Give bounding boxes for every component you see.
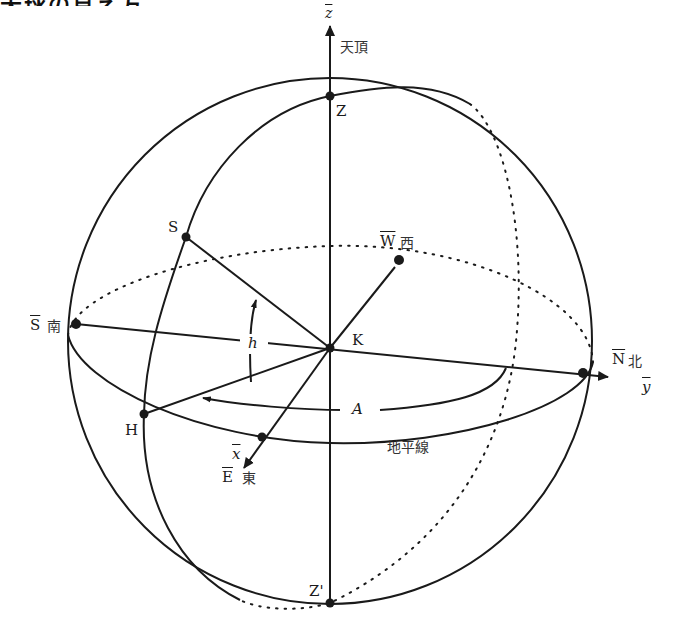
celestial-sphere-diagram	[0, 0, 674, 637]
horizon-label: 地平線	[387, 440, 429, 454]
label-azimuth-a: A	[352, 402, 363, 417]
label-center-k: K	[352, 333, 363, 348]
label-altitude-h: h	[248, 336, 258, 351]
point-center-k	[326, 344, 335, 353]
y-axis-symbol: y	[642, 380, 650, 395]
vertical-circle-front	[144, 96, 330, 600]
point-zenith	[326, 92, 335, 101]
label-north-kanji: 北	[628, 354, 642, 368]
x-axis-symbol: x	[232, 447, 240, 462]
label-h: H	[125, 423, 138, 438]
vertical-circle-top-right	[330, 87, 470, 104]
vertical-circle-back	[240, 104, 519, 609]
label-north-letter: N	[612, 352, 625, 367]
label-star-s: S	[168, 220, 178, 235]
zenith-label: 天頂	[340, 40, 368, 54]
label-west-kanji: 西	[400, 236, 414, 250]
point-nadir	[326, 599, 335, 608]
point-east	[258, 433, 267, 442]
label-nadir: Z'	[309, 584, 324, 599]
point-north	[578, 368, 588, 378]
label-east-kanji: 東	[242, 471, 256, 485]
azimuth-arc-right	[380, 368, 506, 410]
azimuth-arc-left	[203, 398, 345, 410]
label-west-letter: W	[380, 234, 395, 249]
point-south	[71, 319, 81, 329]
label-south-kanji: 南	[47, 319, 61, 333]
point-west	[394, 255, 404, 265]
point-star-s	[182, 233, 191, 242]
point-h	[140, 410, 149, 419]
label-east-letter: E	[222, 470, 233, 485]
label-zenith-z: Z	[336, 104, 346, 119]
line-k-s	[186, 237, 330, 348]
label-south-letter: S	[30, 318, 40, 333]
z-axis-symbol: z	[325, 6, 332, 20]
